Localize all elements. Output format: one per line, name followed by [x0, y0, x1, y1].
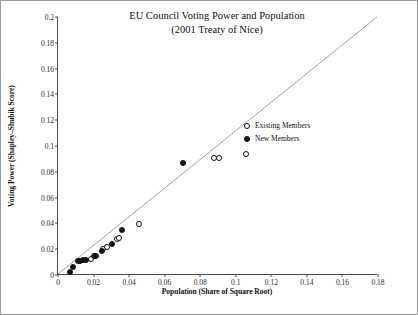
- legend-item: New Members: [244, 132, 348, 145]
- data-point-new: [83, 257, 89, 263]
- data-point-existing: [116, 235, 122, 241]
- y-tick-mark: [55, 17, 58, 18]
- chart-figure: EU Council Voting Power and Population (…: [0, 0, 418, 315]
- data-point-new: [67, 269, 73, 275]
- x-tick-mark: [271, 274, 272, 277]
- x-tick-mark: [306, 274, 307, 277]
- y-axis-label-box: Voting Power (Shapley–Shubik Score): [11, 17, 25, 275]
- x-tick-mark: [235, 274, 236, 277]
- legend-label: New Members: [255, 134, 299, 143]
- data-point-new: [92, 253, 98, 259]
- reference-line: [58, 17, 377, 274]
- x-tick-mark: [378, 274, 379, 277]
- data-point-existing: [216, 155, 222, 161]
- data-point-new: [109, 241, 115, 247]
- data-point-existing: [136, 221, 142, 227]
- data-point-new: [70, 264, 76, 270]
- y-tick-mark: [55, 171, 58, 172]
- legend-item: Existing Members: [244, 119, 348, 132]
- x-tick-mark: [129, 274, 130, 277]
- x-tick-mark: [164, 274, 165, 277]
- x-tick-mark: [200, 274, 201, 277]
- data-point-new: [99, 248, 105, 254]
- data-point-existing: [243, 151, 249, 157]
- legend-label: Existing Members: [255, 121, 310, 130]
- y-tick-mark: [55, 197, 58, 198]
- plot-area: 00.020.040.060.080.10.120.140.160.180.2 …: [57, 17, 377, 275]
- y-tick-mark: [55, 94, 58, 95]
- chart-legend: Existing MembersNew Members: [244, 119, 348, 145]
- y-tick-mark: [55, 120, 58, 121]
- x-tick-mark: [342, 274, 343, 277]
- legend-marker-icon: [244, 136, 250, 142]
- x-axis-label: Population (Share of Square Root): [57, 287, 377, 296]
- x-tick-mark: [58, 274, 59, 277]
- y-tick-mark: [55, 42, 58, 43]
- y-tick-mark: [55, 68, 58, 69]
- y-tick-mark: [55, 146, 58, 147]
- data-point-new: [180, 160, 186, 166]
- data-point-new: [119, 227, 125, 233]
- legend-marker-icon: [244, 123, 250, 129]
- y-tick-mark: [55, 223, 58, 224]
- y-tick-mark: [55, 249, 58, 250]
- x-tick-mark: [93, 274, 94, 277]
- plot-container: EU Council Voting Power and Population (…: [1, 1, 418, 315]
- y-axis-label: Voting Power (Shapley–Shubik Score): [7, 17, 21, 275]
